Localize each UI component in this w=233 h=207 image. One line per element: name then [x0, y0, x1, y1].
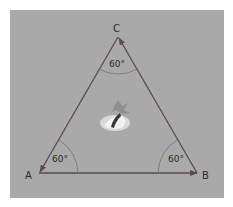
side-ca [40, 37, 118, 172]
equilateral-triangle-diagram: A B C 60° 60° 60° [0, 0, 233, 207]
angle-label-a: 60° [52, 154, 68, 164]
angle-label-c: 60° [109, 59, 125, 69]
vertex-label-a: A [25, 170, 32, 181]
bird-icon [100, 100, 130, 131]
vertex-label-b: B [202, 170, 209, 181]
angle-label-b: 60° [168, 154, 184, 164]
side-bc [119, 38, 197, 173]
vertex-label-c: C [113, 23, 120, 34]
angle-arc-c [99, 69, 137, 74]
